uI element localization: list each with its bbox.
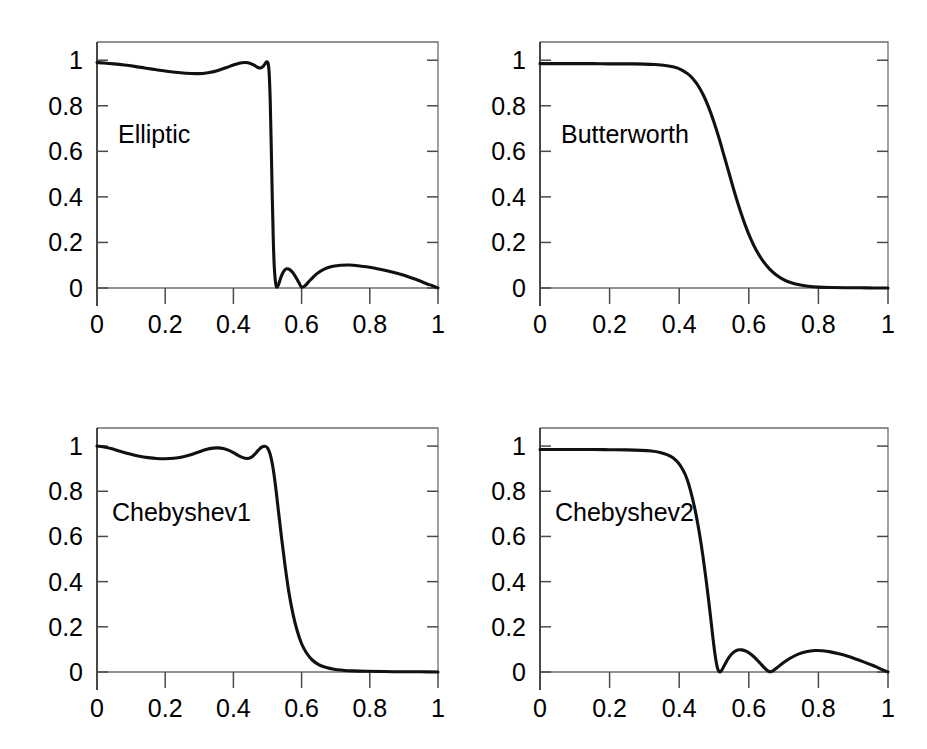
- data-curve: [97, 446, 438, 672]
- y-tick-label: 0.8: [491, 477, 526, 505]
- x-tick-label: 0.2: [592, 310, 627, 338]
- chart-panel-butterworth: 00.20.40.60.8100.20.40.60.81Butterworth: [463, 0, 927, 375]
- plot-frame: [97, 428, 438, 672]
- x-tick-label: 0: [90, 310, 104, 338]
- filter-response-figure: 00.20.40.60.8100.20.40.60.81Elliptic00.2…: [0, 0, 927, 749]
- panel-annotation-label: Chebyshev1: [112, 498, 251, 526]
- chart-panel-elliptic: 00.20.40.60.8100.20.40.60.81Elliptic: [0, 0, 463, 375]
- y-tick-label: 0.8: [48, 477, 83, 505]
- x-tick-label: 0.6: [731, 694, 766, 722]
- x-tick-label: 0.4: [216, 694, 251, 722]
- y-tick-label: 0.6: [491, 137, 526, 165]
- y-tick-label: 0.6: [48, 137, 83, 165]
- x-tick-label: 0.8: [801, 694, 836, 722]
- x-tick-label: 0.8: [801, 310, 836, 338]
- x-tick-label: 1: [431, 310, 445, 338]
- y-tick-label: 0: [512, 658, 526, 686]
- plot-frame: [97, 42, 438, 288]
- y-tick-label: 0: [69, 274, 83, 302]
- data-curve: [540, 449, 888, 672]
- x-tick-label: 0.6: [284, 694, 319, 722]
- data-curve: [97, 62, 438, 288]
- x-tick-label: 0.2: [148, 694, 183, 722]
- x-tick-label: 1: [881, 310, 895, 338]
- x-tick-label: 0.2: [148, 310, 183, 338]
- x-tick-label: 0.4: [662, 694, 697, 722]
- y-tick-label: 1: [69, 46, 83, 74]
- x-tick-label: 1: [881, 694, 895, 722]
- x-tick-label: 0.8: [352, 694, 387, 722]
- y-tick-label: 1: [512, 432, 526, 460]
- y-tick-label: 1: [69, 432, 83, 460]
- y-tick-label: 0.8: [48, 92, 83, 120]
- x-tick-label: 1: [431, 694, 445, 722]
- y-tick-label: 0.4: [491, 183, 526, 211]
- y-tick-label: 0.4: [491, 568, 526, 596]
- y-tick-label: 0.2: [491, 228, 526, 256]
- data-curve: [540, 64, 888, 288]
- y-tick-label: 1: [512, 46, 526, 74]
- y-tick-label: 0.8: [491, 92, 526, 120]
- y-tick-label: 0.2: [48, 228, 83, 256]
- chart-panel-chebyshev1: 00.20.40.60.8100.20.40.60.81Chebyshev1: [0, 375, 463, 749]
- x-tick-label: 0.6: [284, 310, 319, 338]
- y-tick-label: 0.6: [491, 522, 526, 550]
- x-tick-label: 0: [533, 310, 547, 338]
- x-tick-label: 0.2: [592, 694, 627, 722]
- y-tick-label: 0.4: [48, 568, 83, 596]
- y-tick-label: 0.2: [491, 613, 526, 641]
- y-tick-label: 0.4: [48, 183, 83, 211]
- x-tick-label: 0: [90, 694, 104, 722]
- panel-annotation-label: Elliptic: [118, 120, 190, 148]
- y-tick-label: 0.2: [48, 613, 83, 641]
- chart-panel-chebyshev2: 00.20.40.60.8100.20.40.60.81Chebyshev2: [463, 375, 927, 749]
- panel-annotation-label: Butterworth: [561, 120, 689, 148]
- y-tick-label: 0.6: [48, 522, 83, 550]
- y-tick-label: 0: [512, 274, 526, 302]
- x-tick-label: 0.6: [731, 310, 766, 338]
- y-tick-label: 0: [69, 658, 83, 686]
- x-tick-label: 0: [533, 694, 547, 722]
- x-tick-label: 0.4: [662, 310, 697, 338]
- x-tick-label: 0.4: [216, 310, 251, 338]
- panel-annotation-label: Chebyshev2: [555, 498, 694, 526]
- x-tick-label: 0.8: [352, 310, 387, 338]
- plot-frame: [540, 42, 888, 288]
